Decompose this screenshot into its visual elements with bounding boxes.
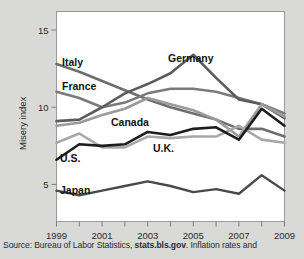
series-label-canada: Canada	[111, 116, 149, 128]
x-tick-label: 2005	[183, 230, 204, 241]
caption-link: stats.bls.gov	[135, 240, 186, 250]
series-label-germany: Germany	[168, 52, 214, 64]
x-tick-label: 2003	[137, 230, 158, 241]
y-axis-tick-labels: 51015	[38, 25, 49, 190]
series-label-japan: Japan	[60, 184, 90, 196]
x-axis-tick-labels: 199920012003200520072009	[46, 230, 295, 241]
x-tick-label: 2009	[274, 230, 295, 241]
y-tick-label: 10	[38, 102, 49, 113]
plot-area	[57, 12, 285, 222]
y-axis-title: Misery index	[17, 96, 28, 150]
x-tick-label: 1999	[46, 230, 67, 241]
y-axis-ticks	[52, 30, 57, 184]
misery-index-chart: 51015 199920012003200520072009 Misery in…	[0, 0, 304, 259]
x-axis-ticks	[57, 222, 285, 227]
series-label-france: France	[62, 80, 97, 92]
x-tick-label: 2007	[228, 230, 249, 241]
source-caption: Source: Bureau of Labor Statistics, stat…	[3, 240, 303, 250]
series-label-italy: Italy	[62, 56, 83, 68]
series-label-us: U.S.	[60, 152, 81, 164]
caption-prefix: Source: Bureau of Labor Statistics,	[3, 240, 135, 250]
x-tick-label: 2001	[92, 230, 113, 241]
y-tick-label: 15	[38, 25, 49, 36]
series-label-uk: U.K.	[153, 142, 174, 154]
y-tick-label: 5	[43, 179, 48, 190]
caption-suffix: . Inflation rates and	[186, 240, 257, 250]
